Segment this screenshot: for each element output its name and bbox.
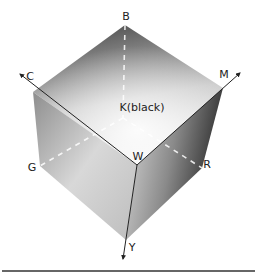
label-g: G (28, 161, 37, 174)
label-r: R (203, 158, 211, 171)
label-m: M (219, 68, 229, 81)
label-b: B (122, 10, 130, 23)
label-k: K(black) (120, 101, 165, 114)
cmyk-cube-diagram: B C M K(black) W G R Y (0, 0, 257, 277)
label-c: C (26, 70, 34, 83)
label-y: Y (128, 241, 136, 254)
label-w: W (133, 150, 144, 163)
